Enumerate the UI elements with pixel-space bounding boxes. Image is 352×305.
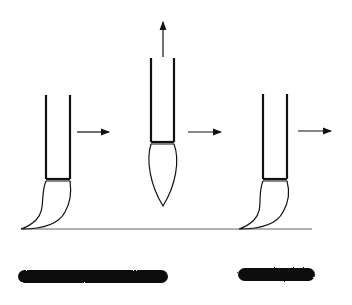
brush-lifted	[149, 58, 177, 206]
ink-stroke-short	[238, 268, 315, 281]
brush-diagram	[0, 0, 352, 305]
ink-stroke-long	[18, 270, 168, 283]
brush-tip-bent	[239, 181, 288, 229]
brush-tip-bent	[21, 181, 71, 229]
brush-pressed-again	[239, 94, 288, 229]
brush-tip-pointed	[149, 144, 177, 206]
brush-pressed	[21, 95, 71, 229]
